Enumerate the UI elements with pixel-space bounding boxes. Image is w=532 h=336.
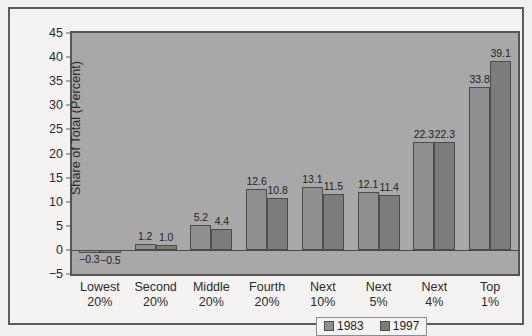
- x-axis-label-line: Next: [310, 280, 336, 295]
- bar-value-label: 10.8: [268, 184, 288, 196]
- bar-1983-Fourth-20%: [246, 189, 267, 250]
- figure-frame: Share of Total (Percent) 454035302520151…: [8, 7, 524, 325]
- y-tick-mark: [66, 201, 72, 202]
- x-axis-label-Second-20%: Second20%: [134, 280, 176, 310]
- bar-value-label: 12.6: [247, 175, 267, 187]
- legend-label: 1997: [393, 319, 420, 333]
- x-axis-label-line: 20%: [80, 295, 120, 310]
- x-axis-label-line: Next: [366, 280, 392, 295]
- legend-swatch-icon: [324, 321, 334, 331]
- y-axis-title: Share of Total (Percent): [69, 0, 83, 278]
- x-axis-label-Top-1%: Top1%: [480, 280, 500, 310]
- legend-swatch-icon: [380, 321, 390, 331]
- bar-value-label: 12.1: [358, 178, 378, 190]
- bar-1983-Next-10%: [302, 187, 323, 250]
- bar-1997-Middle-20%: [211, 229, 232, 250]
- bar-value-label: 33.8: [470, 73, 490, 85]
- y-tick-mark: [66, 57, 72, 58]
- x-axis-label-line: 1%: [480, 295, 500, 310]
- plot-area: Share of Total (Percent) 454035302520151…: [70, 31, 520, 276]
- bar-1997-Next-4%: [434, 142, 455, 249]
- legend-item-1983[interactable]: 1983: [324, 319, 364, 333]
- x-axis-label-line: Fourth: [249, 280, 285, 295]
- bar-1997-Fourth-20%: [267, 198, 288, 250]
- x-axis-label-Lowest-20%: Lowest20%: [80, 280, 120, 310]
- x-axis-labels: Lowest20%Second20%Middle20%Fourth20%Next…: [70, 280, 520, 320]
- x-axis-label-line: 20%: [134, 295, 176, 310]
- bar-value-label: 22.3: [435, 128, 455, 140]
- y-tick-mark: [66, 225, 72, 226]
- y-tick-mark: [66, 33, 72, 34]
- bar-value-label: 13.1: [302, 173, 322, 185]
- bar-1997-Top-1%: [490, 61, 511, 249]
- x-axis-label-line: Second: [134, 280, 176, 295]
- y-tick-mark: [66, 274, 72, 275]
- bar-value-label: 39.1: [491, 47, 511, 59]
- y-tick-mark: [66, 81, 72, 82]
- x-axis-label-line: 10%: [310, 295, 336, 310]
- x-axis-label-Next-4%: Next4%: [422, 280, 448, 310]
- zero-baseline: [72, 250, 518, 251]
- y-tick-mark: [66, 177, 72, 178]
- x-axis-label-line: Next: [422, 280, 448, 295]
- bar-value-label: 4.4: [215, 215, 229, 227]
- bar-1983-Next-5%: [358, 192, 379, 250]
- bar-1997-Next-5%: [379, 195, 400, 250]
- y-tick-mark: [66, 105, 72, 106]
- bar-1997-Second-20%: [156, 245, 177, 250]
- bar-1983-Middle-20%: [190, 225, 211, 250]
- bar-1983-Second-20%: [135, 244, 156, 250]
- x-axis-label-line: 5%: [366, 295, 392, 310]
- x-axis-label-line: Lowest: [80, 280, 120, 295]
- bar-value-label: 5.2: [194, 211, 208, 223]
- x-axis-label-line: 20%: [193, 295, 230, 310]
- x-axis-label-Fourth-20%: Fourth20%: [249, 280, 285, 310]
- x-axis-label-line: Top: [480, 280, 500, 295]
- x-axis-label-line: Middle: [193, 280, 230, 295]
- bar-1997-Lowest-20%: [100, 250, 121, 253]
- x-axis-label-line: 20%: [249, 295, 285, 310]
- chart-figure: Share of Total (Percent) 454035302520151…: [0, 0, 532, 336]
- y-tick-mark: [66, 129, 72, 130]
- bar-1997-Next-10%: [323, 194, 344, 249]
- x-axis-label-Next-5%: Next5%: [366, 280, 392, 310]
- bar-1983-Top-1%: [469, 87, 490, 250]
- bar-value-label: −0.3: [79, 253, 99, 265]
- bar-value-label: 1.2: [138, 230, 152, 242]
- bar-value-label: −0.5: [100, 254, 120, 266]
- x-axis-label-line: 4%: [422, 295, 448, 310]
- x-axis-label-Next-10%: Next10%: [310, 280, 336, 310]
- bar-value-label: 1.0: [159, 231, 173, 243]
- y-tick-mark: [66, 153, 72, 154]
- legend-item-1997[interactable]: 1997: [380, 319, 420, 333]
- bar-value-label: 11.5: [324, 180, 343, 192]
- x-axis-label-Middle-20%: Middle20%: [193, 280, 230, 310]
- bar-value-label: 22.3: [414, 128, 434, 140]
- bar-1983-Next-4%: [413, 142, 434, 249]
- chart-legend: 19831997: [316, 317, 427, 336]
- bar-value-label: 11.4: [379, 181, 398, 193]
- legend-label: 1983: [337, 319, 364, 333]
